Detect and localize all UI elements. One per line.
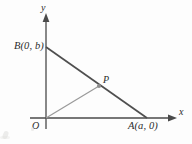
y-axis bbox=[43, 13, 50, 129]
figure-canvas bbox=[0, 0, 192, 144]
x-axis-arrowhead-icon bbox=[168, 115, 177, 122]
point-a-label: A(a, 0) bbox=[128, 121, 158, 132]
scan-artifact bbox=[31, 127, 34, 131]
point-p-label: P bbox=[103, 75, 109, 85]
point-p-dot bbox=[97, 84, 101, 88]
x-axis-label: x bbox=[179, 107, 183, 117]
y-axis-label: y bbox=[41, 3, 45, 13]
y-axis-arrowhead-icon bbox=[43, 13, 50, 22]
coordinate-geometry-figure: B(0, b) A(a, 0) P O x y bbox=[0, 0, 192, 144]
point-b-label: B(0, b) bbox=[14, 41, 44, 52]
segment-ba-line bbox=[46, 47, 147, 118]
scan-artifact bbox=[0, 136, 10, 139]
segment-op-line bbox=[46, 86, 99, 118]
